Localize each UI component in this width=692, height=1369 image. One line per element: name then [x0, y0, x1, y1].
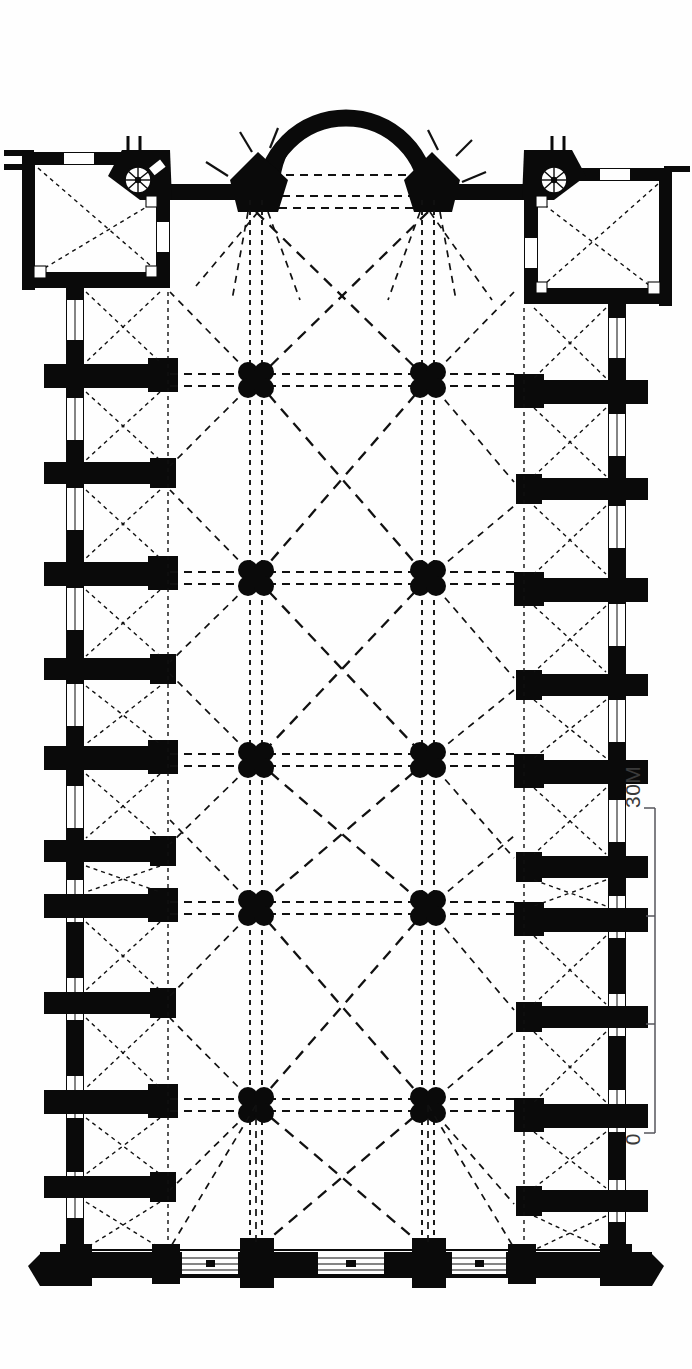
right-chapel-window-west [525, 238, 537, 268]
west-facade-pier-6 [600, 1244, 632, 1286]
right-chapel-east-wall [659, 168, 672, 306]
left-chapel-corner-se [146, 266, 157, 277]
west-facade-pier-1 [60, 1244, 92, 1286]
nave-pier-b2 [410, 560, 446, 596]
right-chapel-window-north [600, 169, 630, 180]
west-portal-left [182, 1252, 238, 1274]
left-chapel-window-north [64, 153, 94, 164]
west-facade-pier-3 [240, 1238, 274, 1288]
left-chapel-window-east [157, 222, 169, 252]
floor-plan-drawing: 30M 0 [0, 0, 692, 1369]
chevet-wall-right [452, 184, 526, 200]
nave-pier-b3 [410, 742, 446, 778]
nave-pier-a4 [238, 890, 274, 926]
left-bay-divider-10 [44, 1172, 176, 1202]
nave-pier-a3 [238, 742, 274, 778]
right-bay-divider-4 [516, 670, 648, 700]
chevet-wall-left [166, 184, 238, 200]
left-bay-divider-2 [44, 458, 176, 488]
right-bay-divider-6 [516, 852, 648, 882]
nave-pier-a2 [238, 560, 274, 596]
right-chapel-corner-nw [536, 196, 547, 207]
nave-pier-b1 [410, 362, 446, 398]
left-bay-divider-8 [44, 988, 176, 1018]
nave-pier-b4 [410, 890, 446, 926]
left-bay-divider-6 [44, 836, 176, 866]
left-chapel-west-wall [22, 152, 35, 290]
right-wall-spur-top [664, 166, 690, 172]
left-chapel-corner-sw [34, 266, 46, 278]
left-bay-divider-4 [44, 654, 176, 684]
right-spiral-stair-icon [541, 167, 567, 193]
floor-plan-root: 30M 0 [0, 0, 692, 1369]
right-bay-divider-2 [516, 474, 648, 504]
left-chapel-corner-ne [146, 196, 157, 207]
right-chapel-corner-sw [536, 282, 547, 293]
right-bay-divider-8 [516, 1002, 648, 1032]
left-wall-spur-top [4, 150, 34, 156]
left-spiral-stair-icon [125, 167, 151, 193]
nave-pier-a1 [238, 362, 274, 398]
west-portal-center [318, 1252, 384, 1274]
left-wall-spur-bottom [4, 164, 30, 170]
scale-label-bottom: 0 [621, 1133, 644, 1145]
right-chapel-corner-se [648, 282, 660, 294]
west-facade-pier-4 [412, 1238, 446, 1288]
right-bay-divider-10 [516, 1186, 648, 1216]
west-portal-right [452, 1252, 506, 1274]
scale-label-top: 30M [621, 766, 644, 808]
